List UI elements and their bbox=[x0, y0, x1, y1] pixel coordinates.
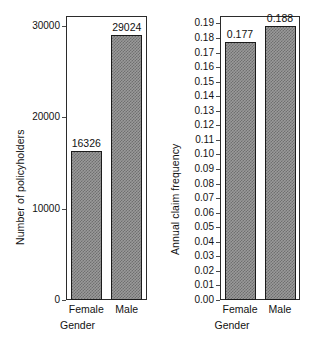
y-tick-mark bbox=[62, 117, 66, 118]
y-tick-label: 0.14 bbox=[158, 91, 214, 101]
y-tick-mark bbox=[216, 300, 220, 301]
y-tick-mark bbox=[216, 96, 220, 97]
x-tick-label: Male bbox=[93, 304, 161, 315]
y-tick-label: 0.11 bbox=[158, 135, 214, 145]
y-tick-mark bbox=[216, 154, 220, 155]
y-tick-mark bbox=[216, 227, 220, 228]
y-tick-mark bbox=[216, 53, 220, 54]
y-tick-label: 0.19 bbox=[158, 18, 214, 28]
chart-panel-claim-frequency: Annual claim frequency 0.000.010.020.030… bbox=[155, 0, 309, 350]
y-tick-mark bbox=[216, 125, 220, 126]
y-tick-mark bbox=[216, 285, 220, 286]
bar-value-label: 0.177 bbox=[210, 29, 270, 40]
x-axis-title-left: Gender bbox=[0, 319, 155, 331]
y-tick-mark bbox=[216, 23, 220, 24]
y-tick-label: 0.09 bbox=[158, 164, 214, 174]
y-tick-mark bbox=[216, 256, 220, 257]
y-tick-label: 0.17 bbox=[158, 48, 214, 58]
y-tick-label: 0.07 bbox=[158, 193, 214, 203]
y-tick-mark bbox=[216, 82, 220, 83]
y-tick-label: 0.12 bbox=[158, 120, 214, 130]
y-axis-title-left: Number of policyholders bbox=[14, 129, 26, 245]
x-tick-label: Male bbox=[246, 304, 309, 315]
y-tick-mark bbox=[216, 213, 220, 214]
y-tick-mark bbox=[216, 67, 220, 68]
y-tick-label: 0.13 bbox=[158, 106, 214, 116]
bar-male bbox=[265, 26, 296, 300]
bar-value-label: 16326 bbox=[56, 138, 116, 149]
y-tick-mark bbox=[62, 26, 66, 27]
y-tick-label: 0.03 bbox=[158, 251, 214, 261]
y-tick-label: 0.06 bbox=[158, 208, 214, 218]
y-tick-mark bbox=[216, 198, 220, 199]
y-tick-label: 20000 bbox=[4, 112, 60, 122]
y-tick-mark bbox=[216, 184, 220, 185]
bar-female bbox=[71, 151, 102, 300]
y-tick-label: 0.15 bbox=[158, 77, 214, 87]
y-tick-label: 0.01 bbox=[158, 280, 214, 290]
y-tick-label: 0.04 bbox=[158, 237, 214, 247]
bar-male bbox=[111, 35, 142, 300]
y-tick-mark bbox=[216, 242, 220, 243]
y-tick-mark bbox=[216, 169, 220, 170]
y-tick-mark bbox=[62, 300, 66, 301]
y-tick-label: 0.18 bbox=[158, 33, 214, 43]
y-tick-mark bbox=[216, 140, 220, 141]
y-tick-label: 0.16 bbox=[158, 62, 214, 72]
y-tick-label: 0.08 bbox=[158, 179, 214, 189]
bar-female bbox=[225, 42, 256, 300]
y-tick-label: 10000 bbox=[4, 204, 60, 214]
y-tick-mark bbox=[62, 209, 66, 210]
y-tick-label: 0.02 bbox=[158, 266, 214, 276]
figure-two-bar-charts: Number of policyholders 0100002000030000… bbox=[0, 0, 309, 350]
y-tick-label: 30000 bbox=[4, 21, 60, 31]
bar-value-label: 29024 bbox=[97, 22, 157, 33]
y-tick-label: 0.10 bbox=[158, 149, 214, 159]
y-tick-mark bbox=[216, 111, 220, 112]
x-axis-title-right: Gender bbox=[155, 319, 309, 331]
y-tick-mark bbox=[216, 271, 220, 272]
bar-value-label: 0.188 bbox=[250, 13, 309, 24]
y-tick-label: 0.05 bbox=[158, 222, 214, 232]
chart-panel-policyholders: Number of policyholders 0100002000030000… bbox=[0, 0, 155, 350]
